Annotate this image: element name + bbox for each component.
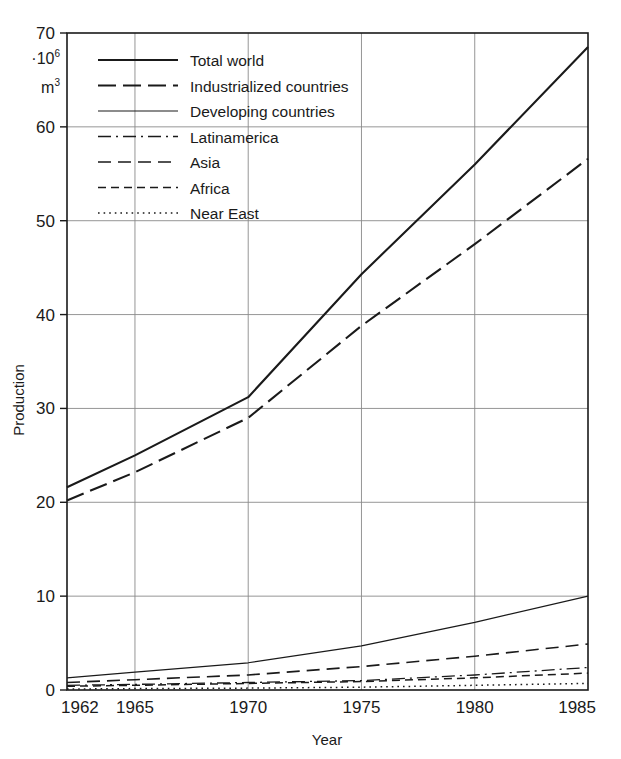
series-layer <box>67 47 588 689</box>
legend-label-developing-countries: Developing countries <box>190 103 335 120</box>
x-tick-labels: 196219651970197519801985 <box>61 698 596 717</box>
y-tick-label: 30 <box>36 399 55 418</box>
legend-label-total-world: Total world <box>190 52 264 69</box>
y-unit-base-label: m3 <box>41 77 60 96</box>
x-tick-label: 1975 <box>343 698 381 717</box>
legend-label-asia: Asia <box>190 154 221 171</box>
tick-marks <box>60 33 67 690</box>
legend-label-africa: Africa <box>190 180 230 197</box>
x-tick-label: 1985 <box>558 698 596 717</box>
plot-frame <box>67 33 588 690</box>
legend-label-industrialized-countries: Industrialized countries <box>190 78 349 95</box>
series-line-developing-countries <box>67 596 588 678</box>
y-tick-label: 70 <box>36 24 55 43</box>
chart-legend: Total worldIndustrialized countriesDevel… <box>98 52 349 222</box>
legend-label-near-east: Near East <box>190 205 260 222</box>
x-axis-title: Year <box>312 731 342 748</box>
y-tick-label: 10 <box>36 587 55 606</box>
unit-base-exponent: 3 <box>54 77 60 88</box>
chart-figure: 010203040506070 196219651970197519801985… <box>0 0 621 759</box>
y-tick-label: 50 <box>36 212 55 231</box>
unit-base-text: m <box>41 79 54 96</box>
unit-prefix-text: ·10 <box>31 50 54 67</box>
unit-prefix-exponent: 6 <box>54 48 60 59</box>
y-tick-label: 60 <box>36 118 55 137</box>
y-tick-label: 40 <box>36 306 55 325</box>
gridlines <box>67 33 588 690</box>
y-tick-label: 0 <box>46 681 55 700</box>
x-tick-label: 1980 <box>456 698 494 717</box>
y-tick-label: 20 <box>36 493 55 512</box>
x-tick-label: 1962 <box>61 698 99 717</box>
x-tick-label: 1965 <box>116 698 154 717</box>
x-tick-label: 1970 <box>229 698 267 717</box>
y-unit-label: ·106 <box>31 48 60 67</box>
y-tick-labels: 010203040506070 <box>36 24 55 700</box>
y-axis-title: Production <box>10 364 27 436</box>
production-line-chart: 010203040506070 196219651970197519801985… <box>0 0 621 759</box>
legend-label-latinamerica: Latinamerica <box>190 129 279 146</box>
